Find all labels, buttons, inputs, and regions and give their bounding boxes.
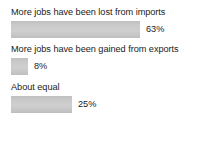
bar-line: 25%	[0, 96, 216, 113]
horizontal-bar-chart: More jobs have been lost from imports 63…	[0, 0, 216, 148]
bar	[11, 58, 28, 75]
bar	[11, 21, 140, 38]
bar-value-label: 8%	[34, 61, 47, 72]
bar-value-label: 63%	[146, 24, 164, 35]
bar-category-label: More jobs have been lost from imports	[0, 7, 216, 18]
bar	[11, 96, 72, 113]
bar-value-label: 25%	[78, 99, 96, 110]
chart-row: More jobs have been lost from imports 63…	[0, 7, 216, 38]
bar-category-label: More jobs have been gained from exports	[0, 44, 216, 55]
chart-row: About equal 25%	[0, 82, 216, 113]
bar-line: 63%	[0, 21, 216, 38]
chart-row: More jobs have been gained from exports …	[0, 44, 216, 75]
bar-category-label: About equal	[0, 82, 216, 93]
bar-line: 8%	[0, 58, 216, 75]
